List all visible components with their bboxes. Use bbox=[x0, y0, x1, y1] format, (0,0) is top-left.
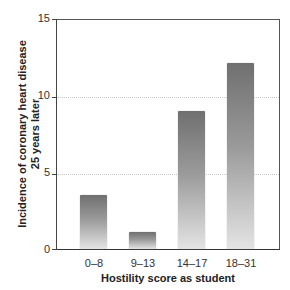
x-tick-label-14-17: 14–17 bbox=[172, 257, 212, 269]
y-tick-label-5: 5 bbox=[30, 166, 50, 178]
y-axis-title-line-2: 25 years later bbox=[29, 34, 42, 234]
y-tick-label-0: 0 bbox=[30, 243, 50, 255]
x-tick-label-0-8: 0–8 bbox=[74, 257, 114, 269]
x-tick-label-9-13: 9–13 bbox=[123, 257, 163, 269]
bar-0-8 bbox=[80, 195, 107, 249]
x-tick-label-18-31: 18–31 bbox=[221, 257, 261, 269]
y-tick-0 bbox=[52, 249, 57, 250]
y-tick-label-15: 15 bbox=[30, 12, 50, 24]
bar-18-31 bbox=[227, 63, 254, 249]
y-axis-title-line-1: Incidence of coronary heart disease bbox=[16, 34, 29, 234]
x-axis-title: Hostility score as student bbox=[56, 272, 280, 284]
plot-area bbox=[56, 19, 280, 250]
bar-9-13 bbox=[129, 232, 156, 249]
y-tick-10 bbox=[52, 97, 57, 98]
y-axis-title: Incidence of coronary heart disease 25 y… bbox=[16, 34, 42, 234]
y-tick-label-10: 10 bbox=[30, 89, 50, 101]
y-tick-15 bbox=[52, 19, 57, 20]
y-tick-5 bbox=[52, 174, 57, 175]
bar-14-17 bbox=[178, 111, 205, 249]
